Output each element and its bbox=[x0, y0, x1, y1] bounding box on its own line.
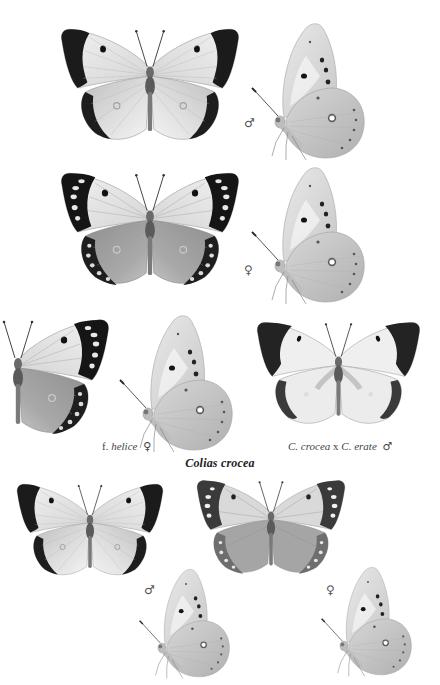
butterfly-helice-upperside bbox=[14, 318, 114, 443]
butterfly-helice-underside bbox=[118, 314, 238, 454]
butterfly-underside-male bbox=[250, 22, 370, 162]
caption-helice: f. helice ♀ bbox=[102, 440, 151, 453]
caption-hybrid-name-b: C. erate bbox=[341, 440, 376, 452]
butterfly-underside-female-2 bbox=[320, 566, 416, 678]
male-symbol: ♂ bbox=[383, 440, 393, 453]
butterfly-upperside-male bbox=[60, 26, 240, 156]
caption-helice-prefix: f. bbox=[102, 440, 108, 452]
butterfly-plate: ♂ ♀ f. helice ♀ bbox=[0, 0, 440, 685]
butterfly-hybrid-upperside bbox=[256, 320, 421, 438]
caption-hybrid-name-a: C. crocea bbox=[288, 440, 330, 452]
caption-helice-name: helice bbox=[111, 440, 137, 452]
butterfly-underside-female bbox=[250, 166, 370, 306]
species-title: Colias crocea bbox=[0, 456, 440, 471]
female-symbol: ♀ bbox=[143, 440, 151, 453]
butterfly-underside-male-2 bbox=[138, 568, 234, 680]
butterfly-upperside-female bbox=[60, 170, 240, 300]
caption-hybrid: C. crocea x C. erate ♂ bbox=[288, 440, 392, 453]
caption-hybrid-separator: x bbox=[333, 440, 339, 452]
